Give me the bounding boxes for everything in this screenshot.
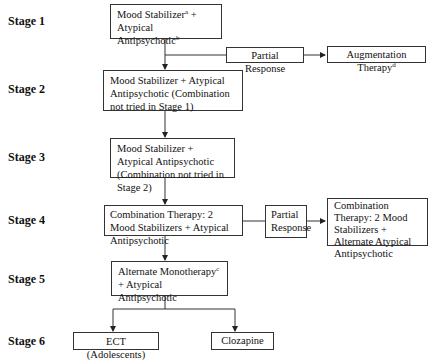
stage-4-partial-response-box: Partial Response <box>265 205 307 238</box>
stage-4-alternate-combination-box: Combination Therapy: 2 Mood Stabilizers … <box>327 198 428 246</box>
stage-3-box: Mood Stabilizer + Atypical Antipsychotic… <box>110 138 235 178</box>
stage-5-text-a: Alternate Monotherapy <box>118 266 216 277</box>
footnote-c: c <box>216 265 219 273</box>
clozapine-text: Clozapine <box>221 335 264 346</box>
stage-1-text-c: Antipsychotic <box>117 35 176 46</box>
stage-5-label: Stage 5 <box>8 272 45 287</box>
stage-1-box: Mood Stabilizera + Atypical Antipsychoti… <box>110 4 222 39</box>
clozapine-box: Clozapine <box>211 332 274 350</box>
partial-response-text: Partial Response <box>245 50 285 74</box>
ect-box: ECT (Adolescents) <box>73 332 159 350</box>
stage-1-label: Stage 1 <box>8 14 45 29</box>
stage-5-box: Alternate Monotherapyc + Atypical Antips… <box>111 261 228 296</box>
partial-response-text: Partial Response <box>271 209 311 233</box>
stage-1-text-a: Mood Stabilizer <box>117 9 185 20</box>
footnote-d: d <box>392 61 396 69</box>
stage-2-box: Mood Stabilizer + Atypical Antipsychotic… <box>103 70 243 111</box>
augmentation-therapy-box: Augmentation Therapyd <box>327 46 426 63</box>
stage-6-label: Stage 6 <box>8 334 45 349</box>
stage-5-text-b: + Atypical Antipsychotic <box>118 279 177 303</box>
footnote-b: b <box>176 34 180 42</box>
stage-4-box: Combination Therapy: 2 Mood Stabilizers … <box>104 205 243 236</box>
stage-3-label: Stage 3 <box>8 150 45 165</box>
stage-1-partial-response-box: Partial Response <box>226 47 304 63</box>
stage-2-text: Mood Stabilizer + Atypical Antipsychotic… <box>110 75 230 112</box>
stage-2-label: Stage 2 <box>8 82 45 97</box>
ect-text: ECT (Adolescents) <box>87 336 145 360</box>
stage-4-label: Stage 4 <box>8 213 45 228</box>
